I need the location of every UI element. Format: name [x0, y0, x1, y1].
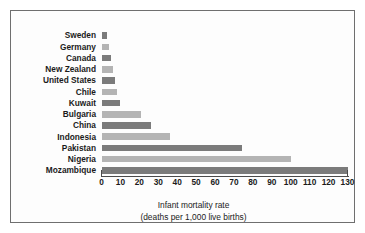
- tick-label: 40: [173, 178, 182, 186]
- bar-row: [102, 41, 348, 52]
- tick-label: 10: [116, 178, 125, 186]
- bar-row: [102, 64, 348, 75]
- chart-frame: SwedenGermanyCanadaNew ZealandUnited Sta…: [10, 10, 355, 223]
- category-axis-labels: SwedenGermanyCanadaNew ZealandUnited Sta…: [25, 30, 98, 176]
- category-label: Nigeria: [25, 154, 98, 165]
- bar: [102, 32, 108, 39]
- bar: [102, 156, 291, 163]
- category-label: Pakistan: [25, 142, 98, 153]
- tick-label: 20: [135, 178, 144, 186]
- category-label: Kuwait: [25, 97, 98, 108]
- category-label: Sweden: [25, 30, 98, 41]
- bar: [102, 167, 348, 174]
- bar-row: [102, 86, 348, 97]
- bar-row: [102, 165, 348, 176]
- tick-label: 50: [191, 178, 200, 186]
- tick-label: 70: [229, 178, 238, 186]
- category-label: New Zealand: [25, 64, 98, 75]
- bar-row: [102, 52, 348, 63]
- bar: [102, 145, 242, 152]
- value-axis-tick-labels: 0102030405060708090100110120130: [102, 178, 348, 190]
- value-axis-title: Infant mortality rate (deaths per 1,000 …: [21, 199, 365, 223]
- bar: [102, 89, 117, 96]
- category-label: Mozambique: [25, 165, 98, 176]
- category-label: China: [25, 120, 98, 131]
- tick-label: 90: [267, 178, 276, 186]
- tick-label: 30: [154, 178, 163, 186]
- bar-row: [102, 131, 348, 142]
- bar: [102, 66, 113, 73]
- bar: [102, 77, 115, 84]
- bar: [102, 55, 111, 62]
- bar-row: [102, 97, 348, 108]
- bar-series: [102, 30, 348, 176]
- tick-label: 0: [99, 178, 104, 186]
- plot-area: [102, 30, 348, 176]
- bar-row: [102, 30, 348, 41]
- bar: [102, 111, 142, 118]
- tick-label: 60: [210, 178, 219, 186]
- bar: [102, 133, 170, 140]
- bar: [102, 100, 121, 107]
- category-label: Chile: [25, 86, 98, 97]
- tick-label: 100: [284, 178, 298, 186]
- bar-row: [102, 109, 348, 120]
- category-label: Canada: [25, 52, 98, 63]
- category-label: Bulgaria: [25, 109, 98, 120]
- tick-label: 120: [322, 178, 336, 186]
- tick-label: 110: [303, 178, 316, 186]
- tick-label: 130: [341, 178, 355, 186]
- bar: [102, 122, 151, 129]
- category-label: Indonesia: [25, 131, 98, 142]
- category-label: Germany: [25, 41, 98, 52]
- chart-figure: SwedenGermanyCanadaNew ZealandUnited Sta…: [0, 0, 365, 233]
- bar-row: [102, 75, 348, 86]
- tick-label: 80: [248, 178, 257, 186]
- bar: [102, 44, 110, 51]
- axis-title-line-2: (deaths per 1,000 live births): [21, 211, 365, 223]
- bar-row: [102, 154, 348, 165]
- category-label: United States: [25, 75, 98, 86]
- bar-row: [102, 120, 348, 131]
- axis-title-line-1: Infant mortality rate: [21, 199, 365, 211]
- bar-row: [102, 142, 348, 153]
